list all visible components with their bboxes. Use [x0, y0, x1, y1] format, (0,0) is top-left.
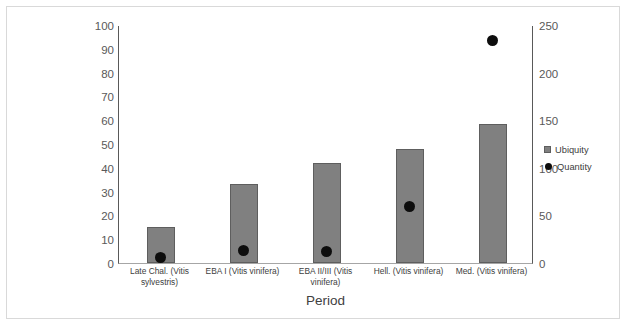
legend-square-icon — [544, 146, 551, 153]
legend-label: Quantity — [557, 162, 592, 172]
left-axis-tick-label: 100 — [80, 21, 114, 32]
left-axis-tick-label: 40 — [80, 163, 114, 174]
bar-ubiquity — [479, 124, 507, 263]
category-label: EBA II/III (Vitis vinifera) — [284, 266, 367, 287]
dot-quantity — [155, 252, 166, 263]
left-value-axis: 0102030405060708090100 — [78, 26, 114, 264]
category-label: Late Chal. (Vitis sylvestris) — [118, 266, 201, 287]
category-label: Med. (Vitis vinifera) — [450, 266, 533, 277]
left-axis-tick-label: 50 — [80, 140, 114, 151]
left-axis-tick-label: 90 — [80, 44, 114, 55]
right-axis-tick-label: 250 — [539, 21, 573, 32]
category-axis-labels: Late Chal. (Vitis sylvestris)EBA I (Viti… — [118, 266, 533, 296]
legend-item[interactable]: Quantity — [544, 158, 614, 175]
category-label: Hell. (Vitis vinifera) — [367, 266, 450, 277]
right-axis-tick-label: 0 — [539, 259, 573, 270]
legend-label: Ubiquity — [555, 145, 589, 155]
left-axis-tick-label: 10 — [80, 235, 114, 246]
right-axis-tick-label: 150 — [539, 116, 573, 127]
plot-area — [118, 26, 533, 264]
dot-quantity — [487, 35, 498, 46]
left-axis-tick-label: 70 — [80, 92, 114, 103]
left-axis-tick-label: 0 — [80, 259, 114, 270]
legend-circle-icon — [545, 163, 552, 170]
left-axis-tick-label: 60 — [80, 116, 114, 127]
left-axis-tick-label: 30 — [80, 187, 114, 198]
legend-item[interactable]: Ubiquity — [544, 141, 614, 158]
x-axis-title: Period — [118, 293, 533, 308]
right-axis-tick-label: 50 — [539, 211, 573, 222]
chart-figure: 0102030405060708090100 050100150200250 L… — [0, 0, 626, 325]
chart-legend: UbiquityQuantity — [544, 141, 614, 175]
left-axis-tick-label: 20 — [80, 211, 114, 222]
category-label: EBA I (Vitis vinifera) — [201, 266, 284, 277]
left-axis-tick-label: 80 — [80, 68, 114, 79]
right-axis-tick-label: 200 — [539, 68, 573, 79]
